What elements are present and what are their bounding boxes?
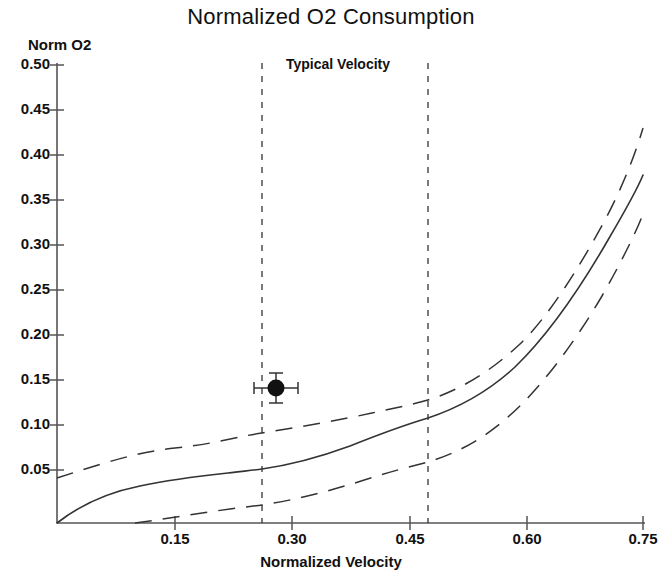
data-point-marker	[268, 380, 285, 397]
chart-figure: Normalized O2 Consumption Norm O2 Normal…	[0, 0, 662, 584]
curve-upper-bound	[57, 128, 643, 478]
curve-lower-bound	[135, 214, 643, 523]
plot-canvas	[0, 0, 662, 584]
data-point-with-error-bars	[254, 373, 298, 403]
curve-mean-fit	[57, 175, 643, 523]
